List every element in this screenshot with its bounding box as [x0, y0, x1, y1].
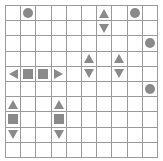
grid-cell[interactable]	[111, 81, 126, 96]
grid-cell[interactable]	[66, 20, 81, 35]
grid-cell[interactable]	[5, 66, 20, 81]
grid-cell[interactable]	[81, 81, 96, 96]
grid-cell[interactable]	[51, 5, 66, 20]
grid-cell[interactable]	[142, 96, 157, 111]
grid-cell[interactable]	[66, 96, 81, 111]
grid-cell[interactable]	[20, 127, 35, 142]
grid-cell[interactable]	[35, 142, 50, 157]
grid-cell[interactable]	[96, 20, 111, 35]
grid-cell[interactable]	[142, 111, 157, 126]
grid-cell[interactable]	[96, 66, 111, 81]
grid-cell[interactable]	[35, 81, 50, 96]
grid-cell[interactable]	[51, 81, 66, 96]
grid-cell[interactable]	[81, 51, 96, 66]
grid-cell[interactable]	[96, 35, 111, 50]
grid-cell[interactable]	[20, 20, 35, 35]
grid-cell[interactable]	[5, 5, 20, 20]
grid-cell[interactable]	[142, 142, 157, 157]
grid-cell[interactable]	[127, 111, 142, 126]
grid-cell[interactable]	[51, 142, 66, 157]
grid-cell[interactable]	[20, 96, 35, 111]
grid-cell[interactable]	[51, 96, 66, 111]
grid-cell[interactable]	[111, 35, 126, 50]
grid-cell[interactable]	[35, 96, 50, 111]
grid-cell[interactable]	[66, 35, 81, 50]
grid-cell[interactable]	[127, 35, 142, 50]
grid-cell[interactable]	[127, 142, 142, 157]
grid-cell[interactable]	[142, 35, 157, 50]
grid-cell[interactable]	[35, 111, 50, 126]
grid-cell[interactable]	[5, 111, 20, 126]
grid-cell[interactable]	[20, 5, 35, 20]
grid-cell[interactable]	[127, 127, 142, 142]
grid-cell[interactable]	[51, 51, 66, 66]
grid-cell[interactable]	[66, 111, 81, 126]
grid-cell[interactable]	[51, 66, 66, 81]
grid-cell[interactable]	[35, 20, 50, 35]
grid-cell[interactable]	[111, 20, 126, 35]
grid-cell[interactable]	[96, 111, 111, 126]
grid-cell[interactable]	[20, 142, 35, 157]
grid-cell[interactable]	[66, 66, 81, 81]
grid-cell[interactable]	[66, 142, 81, 157]
grid-cell[interactable]	[142, 5, 157, 20]
grid-cell[interactable]	[35, 127, 50, 142]
grid-cell[interactable]	[5, 142, 20, 157]
grid-cell[interactable]	[81, 111, 96, 126]
grid-cell[interactable]	[96, 5, 111, 20]
grid-cell[interactable]	[96, 51, 111, 66]
grid-cell[interactable]	[35, 66, 50, 81]
grid-cell[interactable]	[81, 142, 96, 157]
grid-cell[interactable]	[81, 96, 96, 111]
grid-cell[interactable]	[35, 5, 50, 20]
grid-cell[interactable]	[5, 96, 20, 111]
grid-cell[interactable]	[51, 20, 66, 35]
grid-cell[interactable]	[111, 127, 126, 142]
grid-cell[interactable]	[81, 35, 96, 50]
grid-cell[interactable]	[81, 20, 96, 35]
grid-cell[interactable]	[96, 96, 111, 111]
grid-cell[interactable]	[66, 81, 81, 96]
grid-cell[interactable]	[96, 142, 111, 157]
grid-cell[interactable]	[96, 81, 111, 96]
grid-cell[interactable]	[35, 51, 50, 66]
grid-cell[interactable]	[81, 66, 96, 81]
grid-cell[interactable]	[127, 20, 142, 35]
grid-cell[interactable]	[142, 127, 157, 142]
grid-cell[interactable]	[111, 111, 126, 126]
grid-cell[interactable]	[111, 51, 126, 66]
grid-cell[interactable]	[142, 66, 157, 81]
grid-cell[interactable]	[20, 35, 35, 50]
grid-cell[interactable]	[127, 51, 142, 66]
grid-cell[interactable]	[111, 5, 126, 20]
grid-cell[interactable]	[5, 81, 20, 96]
grid-cell[interactable]	[5, 127, 20, 142]
grid-cell[interactable]	[142, 81, 157, 96]
grid-cell[interactable]	[81, 127, 96, 142]
grid-cell[interactable]	[5, 20, 20, 35]
grid-cell[interactable]	[20, 81, 35, 96]
grid-cell[interactable]	[96, 127, 111, 142]
grid-cell[interactable]	[66, 127, 81, 142]
grid-cell[interactable]	[66, 5, 81, 20]
grid-cell[interactable]	[127, 96, 142, 111]
grid-cell[interactable]	[127, 66, 142, 81]
grid-cell[interactable]	[51, 35, 66, 50]
grid-cell[interactable]	[111, 142, 126, 157]
grid-cell[interactable]	[20, 66, 35, 81]
grid-cell[interactable]	[51, 111, 66, 126]
grid-cell[interactable]	[81, 5, 96, 20]
grid-cell[interactable]	[20, 51, 35, 66]
grid-cell[interactable]	[127, 81, 142, 96]
grid-cell[interactable]	[35, 35, 50, 50]
grid-cell[interactable]	[142, 51, 157, 66]
grid-cell[interactable]	[127, 5, 142, 20]
grid-cell[interactable]	[5, 51, 20, 66]
grid-cell[interactable]	[111, 96, 126, 111]
grid-cell[interactable]	[66, 51, 81, 66]
grid-cell[interactable]	[20, 111, 35, 126]
grid-cell[interactable]	[111, 66, 126, 81]
grid-cell[interactable]	[5, 35, 20, 50]
grid-cell[interactable]	[51, 127, 66, 142]
grid-cell[interactable]	[142, 20, 157, 35]
